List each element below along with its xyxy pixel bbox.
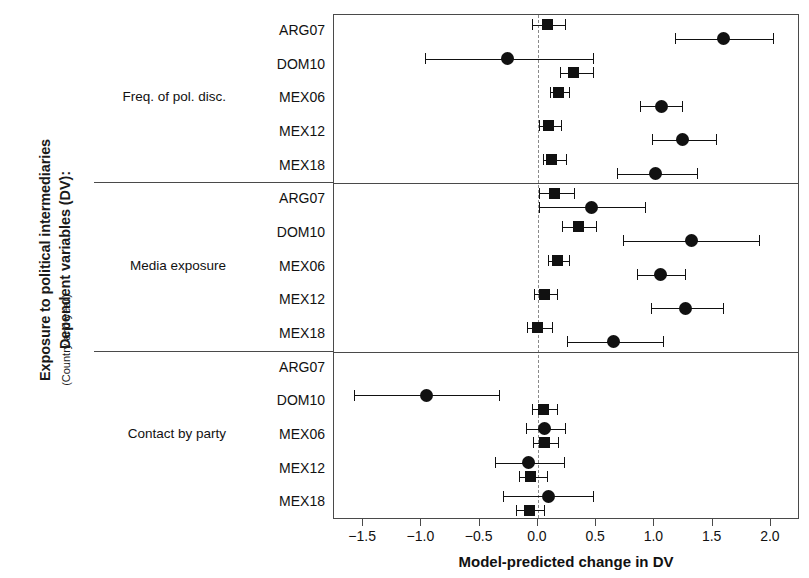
ci-cap-low: [503, 491, 504, 502]
ci-cap-high: [557, 289, 558, 300]
ci-cap-low: [354, 390, 355, 401]
x-axis-tick-label: 1.0: [623, 528, 683, 544]
ci-cap-high: [593, 67, 594, 78]
ci-cap-high: [682, 101, 683, 112]
x-axis-title: Model-predicted change in DV: [333, 553, 799, 570]
ci-cap-low: [539, 202, 540, 213]
ci-cap-low: [532, 19, 533, 30]
ci-cap-high: [593, 491, 594, 502]
row-label-media-exposure-dom10: DOM10: [235, 224, 325, 240]
x-axis-tick: [362, 519, 363, 526]
ci-cap-low: [567, 336, 568, 347]
point-estimate-square: [543, 120, 554, 131]
ci-cap-low: [562, 221, 563, 232]
ci-cap-low: [526, 423, 527, 434]
point-estimate-circle: [420, 389, 433, 402]
ci-cap-high: [593, 53, 594, 64]
point-estimate-square: [524, 505, 535, 516]
y-axis-title-line2: Exposure to political intermediaries: [37, 139, 53, 381]
ci-cap-high: [564, 457, 565, 468]
point-estimate-circle: [542, 490, 555, 503]
row-label-contact-by-party-mex12: MEX12: [235, 460, 325, 476]
point-estimate-circle: [685, 234, 698, 247]
row-label-media-exposure-mex12: MEX12: [235, 291, 325, 307]
x-axis-tick-label: 1.5: [682, 528, 742, 544]
ci-cap-low: [640, 101, 641, 112]
point-estimate-circle: [607, 335, 620, 348]
ci-cap-high: [565, 19, 566, 30]
ci-cap-low: [623, 235, 624, 246]
ci-cap-high: [561, 120, 562, 131]
ci-cap-low: [560, 67, 561, 78]
point-estimate-square: [538, 404, 549, 415]
point-estimate-circle: [585, 201, 598, 214]
ci-cap-low: [637, 269, 638, 280]
row-label-contact-by-party-dom10: DOM10: [235, 392, 325, 408]
point-estimate-square: [546, 154, 557, 165]
point-estimate-circle: [679, 302, 692, 315]
group-separator: [334, 352, 798, 353]
point-estimate-square: [525, 471, 536, 482]
ci-cap-low: [539, 120, 540, 131]
ci-cap-high: [645, 202, 646, 213]
point-estimate-square: [573, 221, 584, 232]
ci-cap-low: [548, 255, 549, 266]
ci-cap-low: [617, 168, 618, 179]
point-estimate-square: [539, 289, 550, 300]
x-axis-tick: [537, 519, 538, 526]
point-estimate-square: [568, 67, 579, 78]
ci-cap-high: [596, 221, 597, 232]
ci-cap-high: [574, 188, 575, 199]
ci-cap-high: [569, 87, 570, 98]
x-axis-tick: [712, 519, 713, 526]
ci-cap-low: [519, 471, 520, 482]
x-axis-tick: [653, 519, 654, 526]
ci-cap-low: [534, 289, 535, 300]
ci-cap-high: [569, 255, 570, 266]
x-axis-tick-label: 2.0: [740, 528, 800, 544]
row-label-freq-of-pol-disc--mex06: MEX06: [235, 89, 325, 105]
ci-cap-high: [552, 322, 553, 333]
point-estimate-circle: [501, 52, 514, 65]
x-axis-tick: [595, 519, 596, 526]
ci-cap-low: [495, 457, 496, 468]
ci-cap-low: [652, 134, 653, 145]
point-estimate-square: [553, 87, 564, 98]
ci-cap-high: [773, 33, 774, 44]
x-axis-tick-label: −1.0: [390, 528, 450, 544]
point-estimate-circle: [649, 167, 662, 180]
row-label-contact-by-party-arg07: ARG07: [235, 359, 325, 375]
ci-cap-low: [550, 87, 551, 98]
x-axis-tick: [770, 519, 771, 526]
point-estimate-circle: [655, 100, 668, 113]
ci-cap-high: [759, 235, 760, 246]
point-estimate-square: [532, 322, 543, 333]
point-estimate-circle: [522, 456, 535, 469]
ci-cap-high: [544, 505, 545, 516]
ci-cap-high: [499, 390, 500, 401]
y-axis-title-line3-wrap: (Country and year): [56, 210, 74, 470]
x-axis-tick: [479, 519, 480, 526]
ci-cap-high: [547, 471, 548, 482]
point-estimate-circle: [538, 422, 551, 435]
row-label-freq-of-pol-disc--mex18: MEX18: [235, 157, 325, 173]
group-label-media-exposure: Media exposure: [88, 258, 226, 273]
ci-cap-low: [543, 154, 544, 165]
row-label-media-exposure-mex06: MEX06: [235, 258, 325, 274]
ci-cap-low: [533, 437, 534, 448]
y-axis-title-line2-wrap: Exposure to political intermediaries: [36, 10, 54, 510]
group-label-freq-of-pol-disc-: Freq. of pol. disc.: [88, 89, 226, 104]
ci-cap-high: [723, 303, 724, 314]
plot-area: [333, 14, 799, 519]
ci-cap-high: [565, 423, 566, 434]
ci-cap-high: [558, 437, 559, 448]
ci-cap-high: [557, 404, 558, 415]
group-separator-extension: [94, 182, 333, 183]
point-estimate-square: [552, 255, 563, 266]
ci-cap-high: [663, 336, 664, 347]
point-estimate-square: [539, 437, 550, 448]
y-axis-title: Dependent variables (DV): Exposure to po…: [0, 0, 70, 520]
ci-cap-low: [527, 322, 528, 333]
x-axis-tick-label: −1.5: [332, 528, 392, 544]
group-separator-extension: [94, 351, 333, 352]
